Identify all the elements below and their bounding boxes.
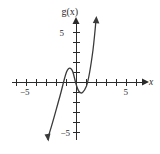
x-tick-label--5: −5: [20, 87, 30, 97]
curve-upper-arrow-icon: [93, 16, 100, 24]
function-label-gx: g(x): [62, 6, 79, 18]
function-curve-g: [48, 20, 97, 139]
y-axis-arrow-icon: [73, 17, 80, 24]
curve-lower-arrow-icon: [45, 134, 51, 142]
graph-figure: −5 5 5 −5 g(x) x: [0, 0, 160, 154]
x-tick-label-5: 5: [124, 87, 129, 97]
coordinate-plot: −5 5 5 −5 g(x) x: [0, 0, 160, 154]
x-axis-group: [12, 79, 149, 86]
curve-group: [45, 16, 100, 142]
y-tick-label-5: 5: [60, 28, 65, 38]
x-axis-label: x: [148, 77, 154, 87]
y-axis-group: [73, 17, 80, 140]
y-tick-label--5: −5: [60, 128, 70, 138]
